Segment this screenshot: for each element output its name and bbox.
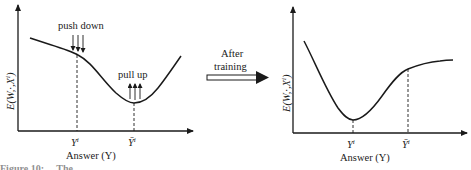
right-energy-curve (304, 41, 453, 120)
left-tick-y-bar: Ȳⁱ (128, 138, 136, 149)
left-x-axis-label: Answer (Y) (66, 151, 116, 162)
right-x-axis-label: Answer (Y) (340, 153, 390, 164)
right-tick-y-bar: Ȳⁱ (402, 140, 410, 151)
right-energy-plot (293, 7, 467, 133)
pull-up-arrows-icon (130, 84, 140, 100)
left-energy-curve (30, 38, 181, 103)
after-training-arrow-icon (207, 71, 269, 84)
push-down-label: push down (58, 21, 104, 32)
left-y-axis-label: E(W,·,Xⁱ) (4, 72, 16, 110)
after-training-label-line2: training (214, 62, 247, 73)
right-tick-y-correct: Yⁱ (347, 140, 355, 151)
push-down-arrows-icon (73, 35, 83, 52)
left-tick-y-correct: Yⁱ (71, 138, 79, 149)
pull-up-label: pull up (118, 70, 147, 81)
right-y-axis-label: E(W,·,Xⁱ) (280, 74, 292, 112)
figure-caption-fragment: Figure 10: ... The ... (0, 163, 83, 170)
after-training-label-line1: After (221, 49, 243, 60)
left-energy-plot (18, 5, 193, 131)
